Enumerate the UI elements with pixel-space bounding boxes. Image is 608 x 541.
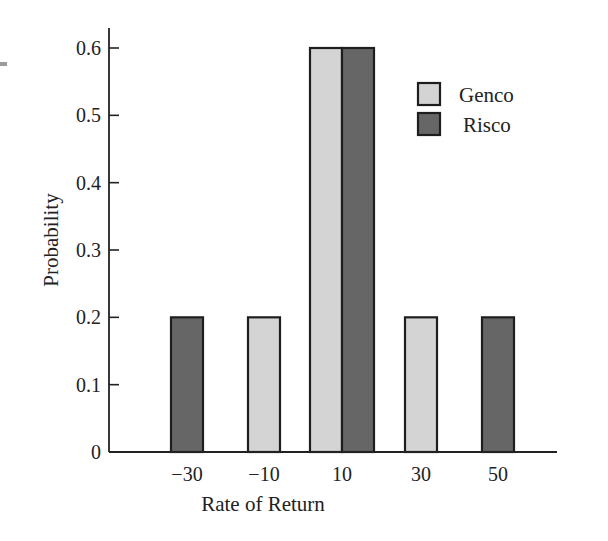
legend-swatch-genco <box>418 83 440 105</box>
y-tick-label: 0.2 <box>76 306 101 328</box>
y-tick-label: 0 <box>91 441 101 463</box>
legend-swatch-risco <box>418 113 440 135</box>
y-tick-label: 0.6 <box>76 37 101 59</box>
y-axis-label: Probability <box>39 193 63 287</box>
y-tick-label: 0.3 <box>76 239 101 261</box>
bar-genco <box>310 48 342 452</box>
bars-group <box>171 48 514 452</box>
x-ticks: −30−10103050 <box>171 463 508 485</box>
bar-chart: 00.10.20.30.40.50.6 −30−10103050 Rate of… <box>0 0 608 541</box>
y-tick-label: 0.5 <box>76 104 101 126</box>
y-tick-label: 0.4 <box>76 172 101 194</box>
legend-label-risco: Risco <box>463 113 511 137</box>
bar-risco <box>482 317 514 452</box>
bar-genco <box>405 317 437 452</box>
x-tick-label: 10 <box>332 463 352 485</box>
x-tick-label: 30 <box>411 463 431 485</box>
y-tick-label: 0.1 <box>76 374 101 396</box>
x-tick-label: −10 <box>248 463 279 485</box>
bar-risco <box>171 317 203 452</box>
y-ticks: 00.10.20.30.40.50.6 <box>76 37 119 463</box>
legend-label-genco: Genco <box>459 83 514 107</box>
x-tick-label: 50 <box>488 463 508 485</box>
bar-genco <box>248 317 280 452</box>
x-tick-label: −30 <box>171 463 202 485</box>
bar-risco <box>342 48 374 452</box>
x-axis-label: Rate of Return <box>201 492 325 516</box>
legend: GencoRisco <box>418 83 514 137</box>
